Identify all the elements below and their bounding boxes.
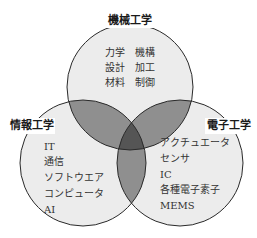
item-electronic: 各種電子素子 <box>160 183 220 195</box>
item-information: AI <box>43 204 55 215</box>
item-electronic: アクチュエータ <box>160 137 230 148</box>
title-mechanical: 機械工学 <box>108 13 152 27</box>
item-information: IT <box>44 141 55 152</box>
item-information: 通信 <box>44 156 64 167</box>
item-mechanical: 材料 <box>105 76 125 88</box>
item-information: コンピュータ <box>44 188 104 199</box>
item-electronic: センサ <box>160 153 190 164</box>
title-information: 情報工学 <box>10 118 54 132</box>
item-mechanical: 設計 <box>105 61 125 73</box>
item-information: ソフトウエア <box>44 172 104 183</box>
item-electronic: MEMS <box>160 200 195 211</box>
item-mechanical: 加工 <box>135 62 155 73</box>
item-mechanical: 力学 <box>105 46 125 58</box>
item-mechanical: 制御 <box>135 76 155 88</box>
item-electronic: IC <box>160 169 172 180</box>
venn-diagram: 機械工学 情報工学 電子工学 力学 機構 設計 加工 材料 制御 IT 通信 ソ… <box>0 0 257 238</box>
title-electronic: 電子工学 <box>207 118 251 132</box>
item-mechanical: 機構 <box>135 46 155 58</box>
